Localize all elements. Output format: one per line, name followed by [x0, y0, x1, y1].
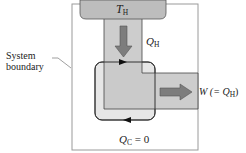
system-boundary-label: System boundary — [6, 50, 44, 72]
diagram-graphics — [0, 0, 246, 153]
hot-reservoir-label: TH — [116, 3, 128, 17]
work-out-label: W (= QH) — [199, 87, 238, 99]
boundary-pointer-line — [52, 58, 71, 68]
heat-in-label: QH — [146, 36, 159, 49]
heat-out-label: QC = 0 — [119, 134, 149, 147]
